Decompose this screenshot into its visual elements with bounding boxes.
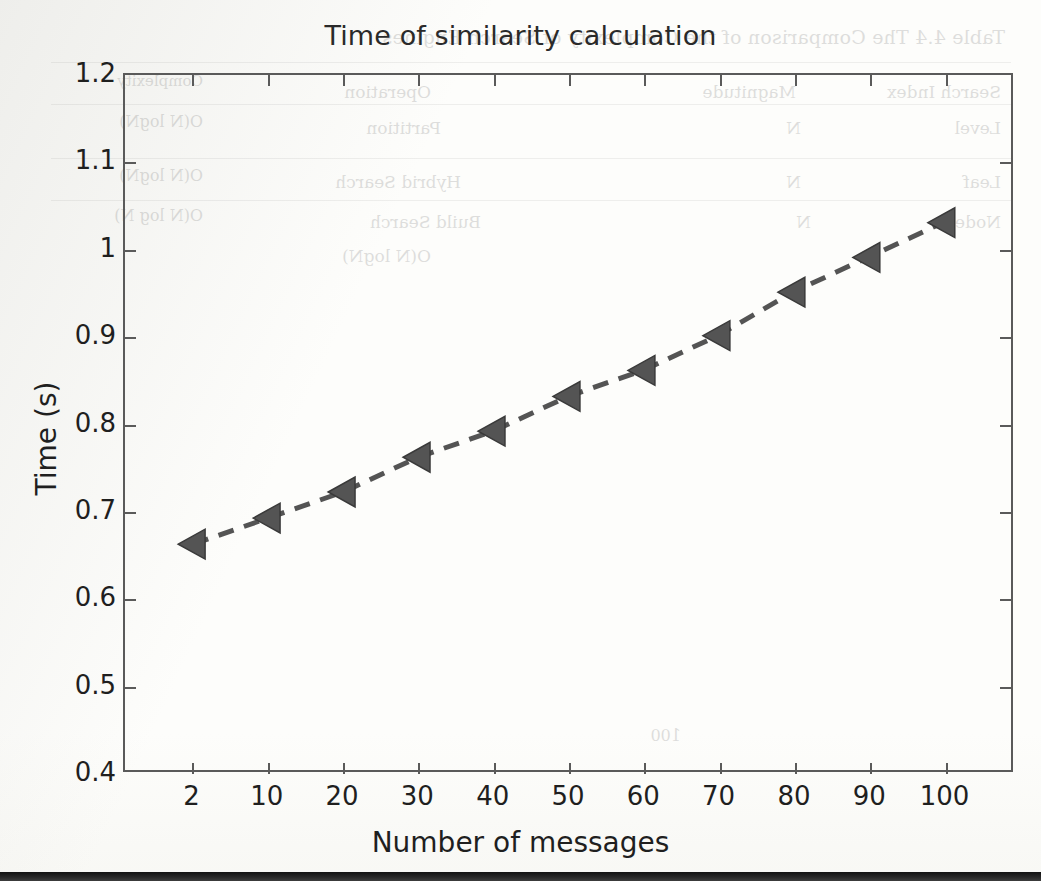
data-point-marker bbox=[703, 321, 730, 351]
x-tick-mark bbox=[192, 75, 194, 86]
x-tick-mark bbox=[795, 763, 797, 774]
data-point-marker bbox=[328, 477, 355, 507]
data-point-marker bbox=[553, 382, 580, 412]
scan-edge-band bbox=[0, 872, 1041, 881]
data-point-marker bbox=[928, 208, 955, 238]
y-tick-mark bbox=[1000, 512, 1011, 514]
plot-area bbox=[123, 73, 1013, 772]
x-tick-mark bbox=[946, 763, 948, 774]
y-tick-label: 0.7 bbox=[24, 495, 116, 525]
data-point-marker bbox=[778, 277, 805, 307]
x-tick-mark bbox=[418, 763, 420, 774]
y-tick-mark bbox=[1000, 687, 1011, 689]
y-tick-mark bbox=[125, 337, 136, 339]
x-axis-tick-labels: 2102030405060708090100 bbox=[0, 781, 1041, 825]
x-tick-mark bbox=[644, 763, 646, 774]
x-tick-mark bbox=[494, 75, 496, 86]
series-plot bbox=[125, 75, 1011, 770]
x-tick-mark bbox=[343, 763, 345, 774]
y-tick-mark bbox=[1000, 425, 1011, 427]
y-tick-label: 1.1 bbox=[24, 145, 116, 175]
series-line bbox=[193, 223, 943, 544]
x-tick-mark bbox=[569, 763, 571, 774]
x-tick-mark bbox=[644, 75, 646, 86]
scan-edge-underlay bbox=[0, 881, 1041, 893]
y-tick-mark bbox=[1000, 337, 1011, 339]
y-tick-label: 0.6 bbox=[24, 582, 116, 612]
y-tick-label: 0.5 bbox=[24, 670, 116, 700]
y-tick-label: 1.2 bbox=[24, 58, 116, 88]
x-tick-mark bbox=[494, 763, 496, 774]
x-tick-mark bbox=[870, 763, 872, 774]
y-tick-mark bbox=[125, 599, 136, 601]
y-tick-label: 0.8 bbox=[24, 408, 116, 438]
x-tick-mark bbox=[268, 75, 270, 86]
y-tick-mark bbox=[125, 250, 136, 252]
data-point-marker bbox=[178, 529, 205, 559]
x-tick-mark bbox=[720, 763, 722, 774]
data-point-marker bbox=[253, 503, 280, 533]
y-tick-label: 0.9 bbox=[24, 320, 116, 350]
x-tick-mark bbox=[268, 763, 270, 774]
y-axis-tick-labels: 1.21.110.90.80.70.60.50.4 bbox=[10, 0, 116, 893]
data-point-marker bbox=[478, 416, 505, 446]
x-tick-label: 100 bbox=[900, 781, 990, 811]
y-tick-mark bbox=[125, 687, 136, 689]
x-axis-label: Number of messages bbox=[0, 826, 1041, 859]
y-tick-mark bbox=[125, 425, 136, 427]
y-tick-mark bbox=[125, 162, 136, 164]
y-tick-mark bbox=[125, 512, 136, 514]
chart-title: Time of similarity calculation bbox=[0, 20, 1041, 51]
data-point-marker bbox=[628, 355, 655, 385]
x-tick-mark bbox=[192, 763, 194, 774]
x-tick-mark bbox=[418, 75, 420, 86]
x-tick-mark bbox=[946, 75, 948, 86]
x-tick-mark bbox=[720, 75, 722, 86]
y-tick-label: 1 bbox=[24, 233, 116, 263]
y-tick-mark bbox=[1000, 162, 1011, 164]
data-point-marker bbox=[403, 442, 430, 472]
x-tick-mark bbox=[870, 75, 872, 86]
x-tick-mark bbox=[795, 75, 797, 86]
x-tick-mark bbox=[343, 75, 345, 86]
y-tick-mark bbox=[1000, 250, 1011, 252]
chart-figure: Time of similarity calculation Time (s) … bbox=[0, 0, 1041, 893]
x-tick-mark bbox=[569, 75, 571, 86]
y-tick-mark bbox=[1000, 599, 1011, 601]
data-point-marker bbox=[853, 243, 880, 273]
